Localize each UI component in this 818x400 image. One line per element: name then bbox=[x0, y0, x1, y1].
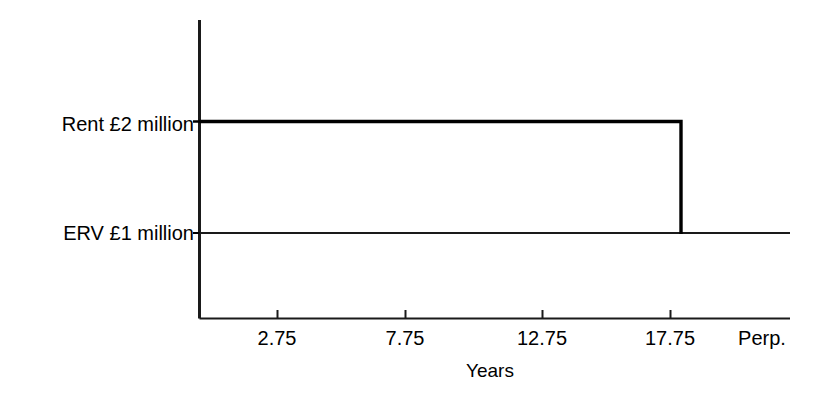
x-tick-label-17-75: 17.75 bbox=[645, 328, 695, 348]
x-tick-label-12-75: 12.75 bbox=[517, 328, 567, 348]
y-axis-label-rent: Rent £2 million bbox=[62, 114, 194, 134]
x-axis-title: Years bbox=[466, 361, 514, 380]
series-line-rent bbox=[200, 122, 682, 235]
x-tick-label-7-75: 7.75 bbox=[386, 328, 425, 348]
x-tick-label-perp: Perp. bbox=[738, 328, 786, 348]
y-axis-label-erv: ERV £1 million bbox=[63, 223, 194, 243]
x-tick-label-2-75: 2.75 bbox=[258, 328, 297, 348]
chart-figure: Rent £2 million ERV £1 million 2.75 7.75… bbox=[0, 0, 818, 400]
